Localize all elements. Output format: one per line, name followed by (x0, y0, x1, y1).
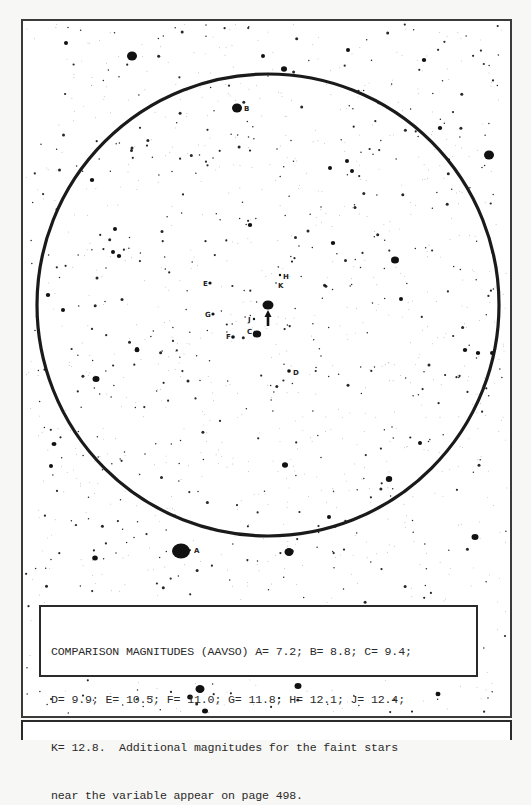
bright-star (61, 308, 65, 312)
faint-star (211, 382, 212, 383)
faint-star (423, 597, 425, 599)
faint-star (110, 396, 112, 398)
faint-star (231, 285, 233, 287)
faint-star (386, 461, 387, 462)
faint-star (56, 266, 58, 268)
faint-star (250, 219, 251, 220)
faint-star (402, 55, 403, 56)
faint-star (256, 85, 257, 86)
faint-star (225, 84, 226, 85)
faint-star (273, 461, 274, 462)
faint-star (219, 219, 221, 221)
faint-star (382, 366, 383, 367)
faint-star (275, 180, 276, 181)
faint-star (232, 45, 233, 46)
faint-star (176, 122, 178, 124)
faint-star (206, 432, 207, 433)
faint-star (330, 94, 331, 95)
faint-star (451, 218, 452, 219)
faint-star (486, 314, 488, 316)
faint-star (102, 469, 104, 471)
faint-star (315, 367, 317, 369)
faint-star (296, 161, 297, 162)
faint-star (164, 256, 166, 258)
faint-star (216, 454, 217, 455)
faint-star (84, 255, 85, 256)
faint-star (237, 509, 238, 510)
faint-star (449, 574, 450, 575)
faint-star (125, 455, 126, 456)
faint-star (446, 139, 447, 140)
faint-star (321, 222, 322, 223)
faint-star (190, 154, 193, 157)
faint-star (339, 67, 340, 68)
faint-star (405, 522, 406, 523)
faint-star (299, 185, 300, 186)
faint-star (247, 582, 248, 583)
faint-star (30, 655, 31, 656)
faint-star (276, 344, 277, 345)
faint-star (87, 325, 88, 326)
faint-star (241, 500, 242, 501)
faint-star (387, 552, 388, 553)
faint-star (370, 502, 371, 503)
faint-star (235, 137, 236, 138)
faint-star (32, 202, 34, 204)
faint-star (388, 250, 390, 252)
faint-star (296, 584, 297, 585)
faint-star (460, 269, 462, 271)
faint-star (172, 206, 173, 207)
faint-star (134, 146, 135, 147)
faint-star (366, 39, 368, 41)
faint-star (105, 370, 107, 372)
faint-star (265, 326, 266, 327)
faint-star (94, 304, 97, 307)
faint-star (326, 502, 327, 503)
faint-star (410, 108, 412, 110)
faint-star (340, 139, 342, 141)
faint-star (346, 108, 347, 109)
faint-star (163, 382, 165, 384)
faint-star (321, 191, 322, 192)
faint-star (365, 413, 366, 414)
faint-star (198, 145, 199, 146)
faint-star (105, 542, 107, 544)
faint-star (206, 129, 208, 131)
faint-star (432, 343, 433, 344)
faint-star (278, 471, 279, 472)
faint-star (418, 357, 419, 358)
faint-star (221, 286, 222, 287)
faint-star (460, 93, 463, 96)
bright-star (49, 464, 53, 468)
faint-star (125, 491, 126, 492)
faint-star (141, 44, 142, 45)
faint-star (117, 520, 119, 522)
faint-star (287, 502, 288, 503)
faint-star (439, 32, 440, 33)
bright-star (328, 166, 332, 170)
faint-star (286, 116, 287, 117)
faint-star (390, 441, 391, 442)
bright-star (46, 293, 50, 297)
faint-star (318, 190, 319, 191)
faint-star (495, 286, 496, 287)
faint-star (161, 230, 164, 233)
faint-star (194, 256, 195, 257)
variable-star (263, 301, 274, 310)
bright-star (418, 441, 422, 445)
faint-star (403, 504, 404, 505)
faint-star (481, 456, 482, 457)
bright-star (285, 548, 294, 556)
faint-star (486, 689, 487, 690)
faint-star (181, 479, 182, 480)
faint-star (136, 505, 137, 506)
faint-star (398, 102, 399, 103)
faint-star (312, 441, 313, 442)
faint-star (157, 55, 160, 58)
faint-star (496, 224, 497, 225)
faint-star (196, 355, 198, 357)
faint-star (396, 267, 397, 268)
faint-star (447, 172, 450, 175)
faint-star (295, 420, 296, 421)
faint-star (352, 207, 353, 208)
